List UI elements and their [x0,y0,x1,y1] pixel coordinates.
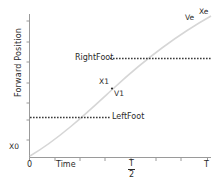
trajectory-line [30,16,211,156]
annotation-x0: X0 [9,143,19,151]
forward-position-vs-time-chart: Forward Position X0 0 Time T T 2 LeftFoo… [0,0,224,184]
x-tick-label-half: T 2 [128,160,135,179]
chart-plot-area [0,0,224,184]
annotation-right-foot: RightFoot [75,54,113,62]
x-tick-half-denominator: 2 [128,171,135,179]
y-axis-label: Forward Position [14,15,23,111]
x-axis-label: Time [56,161,76,169]
v1-point-marker [111,87,113,89]
annotation-v1: V1 [114,90,124,98]
annotation-ve: Ve [185,14,194,22]
x-tick-label-end: T [204,161,209,169]
annotation-x1: X1 [99,78,109,86]
x-tick-half-numerator: T [128,160,135,168]
x-tick-label-origin: 0 [27,161,32,169]
annotation-left-foot: LeftFoot [112,113,144,121]
annotation-xe: Xe [199,8,208,16]
